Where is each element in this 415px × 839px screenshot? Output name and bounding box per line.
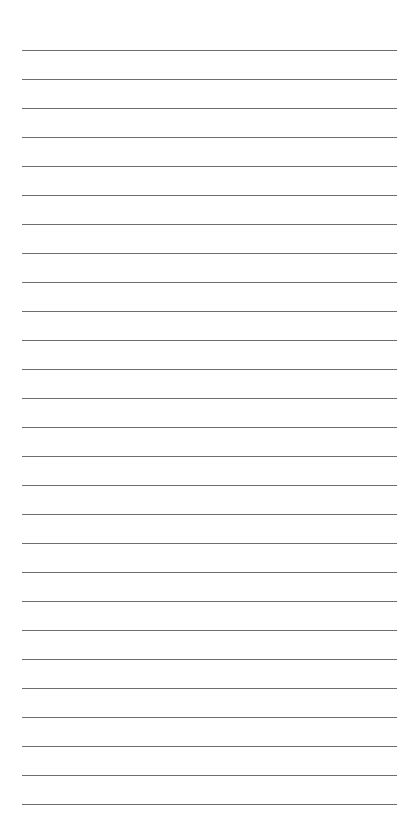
ruled-line: [22, 282, 397, 283]
ruled-line: [22, 601, 397, 602]
ruled-line: [22, 659, 397, 660]
ruled-line: [22, 543, 397, 544]
ruled-line: [22, 311, 397, 312]
ruled-line: [22, 137, 397, 138]
ruled-line: [22, 195, 397, 196]
ruled-line: [22, 775, 397, 776]
ruled-line: [22, 630, 397, 631]
ruled-line: [22, 746, 397, 747]
ruled-line: [22, 224, 397, 225]
ruled-line: [22, 108, 397, 109]
ruled-line: [22, 398, 397, 399]
ruled-line: [22, 166, 397, 167]
ruled-line: [22, 369, 397, 370]
ruled-line: [22, 717, 397, 718]
ruled-line: [22, 514, 397, 515]
ruled-line: [22, 572, 397, 573]
ruled-line: [22, 50, 397, 51]
ruled-line: [22, 804, 397, 805]
ruled-line: [22, 456, 397, 457]
ruled-line: [22, 485, 397, 486]
ruled-line: [22, 79, 397, 80]
ruled-line: [22, 427, 397, 428]
ruled-line: [22, 253, 397, 254]
ruled-line: [22, 688, 397, 689]
ruled-line: [22, 340, 397, 341]
